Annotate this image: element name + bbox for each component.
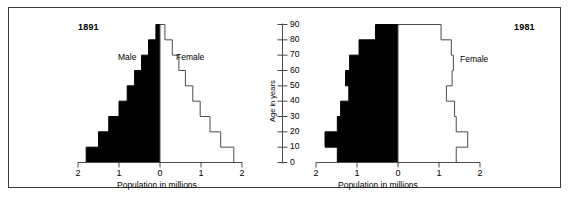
chart-panel-1891: 1891 Male Female 2 1 0 1 2 Population in… (0, 0, 260, 199)
age-tick-label-20: 20 (290, 126, 299, 136)
age-tick-label-60: 60 (290, 65, 299, 75)
male-area-1981 (325, 25, 398, 163)
age-tick-label-10: 10 (290, 141, 299, 151)
x-tick-label-1891-2: 0 (150, 168, 170, 178)
female-bars-1891 (160, 25, 234, 163)
x-tick-label-1891-0: 2 (68, 168, 88, 178)
x-axis-1891 (78, 163, 242, 168)
x-axis-1981 (316, 163, 480, 168)
x-tick-label-1891-1: 1 (109, 168, 129, 178)
female-area-1891 (160, 25, 234, 163)
age-tick-label-80: 80 (290, 34, 299, 44)
pyramid-svg-1891 (0, 0, 260, 199)
x-tick-label-1981-2: 0 (388, 168, 408, 178)
x-tick-label-1981-0: 2 (306, 168, 326, 178)
x-tick-label-1981-1: 1 (347, 168, 367, 178)
male-bars-1891 (86, 25, 160, 163)
male-bars-1981 (325, 25, 398, 163)
x-tick-label-1981-3: 1 (429, 168, 449, 178)
series-label-male-1981: Male (354, 54, 372, 64)
age-tick-label-50: 50 (290, 80, 299, 90)
x-tick-label-1981-4: 2 (470, 168, 490, 178)
age-tick-label-70: 70 (290, 49, 299, 59)
male-area-1891 (86, 25, 160, 163)
chart-panel-1981: 1981 Male Female 2 1 0 1 2 Population in… (300, 0, 573, 199)
age-tick-label-30: 30 (290, 111, 299, 121)
series-label-male-1891: Male (118, 52, 136, 62)
x-tick-label-1891-3: 1 (191, 168, 211, 178)
x-axis-title-1981: Population in millions (338, 180, 418, 190)
age-tick-label-0: 0 (290, 157, 295, 167)
age-tick-label-40: 40 (290, 95, 299, 105)
y-axis-title: Age in years (268, 80, 277, 122)
female-bars-1981 (398, 25, 468, 163)
series-label-female-1891: Female (176, 52, 204, 62)
age-tick-label-90: 90 (290, 19, 299, 29)
population-pyramid-figure: 1891 Male Female 2 1 0 1 2 Population in… (0, 0, 573, 199)
female-area-1981 (398, 25, 468, 163)
x-tick-label-1891-4: 2 (232, 168, 252, 178)
x-axis-title-1891: Population in millions (117, 180, 197, 190)
series-label-female-1981: Female (460, 54, 488, 64)
